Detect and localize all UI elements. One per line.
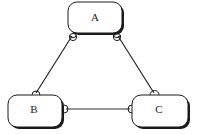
socket-icon-a-right-arc — [114, 35, 121, 38]
node-a[interactable]: A — [68, 2, 124, 35]
edge-a-b[interactable] — [36, 36, 72, 93]
node-b[interactable]: B — [8, 95, 64, 129]
edge-a-c[interactable] — [118, 36, 154, 93]
node-a-label: A — [91, 11, 99, 23]
socket-icon-c-a — [150, 91, 159, 96]
node-c[interactable]: C — [132, 95, 190, 129]
socket-icon-a-left-arc — [70, 35, 77, 38]
socket-overlays — [70, 35, 121, 38]
relationship-diagram: A B C — [0, 0, 199, 134]
node-c-label: C — [155, 103, 162, 115]
node-b-label: B — [30, 103, 37, 115]
